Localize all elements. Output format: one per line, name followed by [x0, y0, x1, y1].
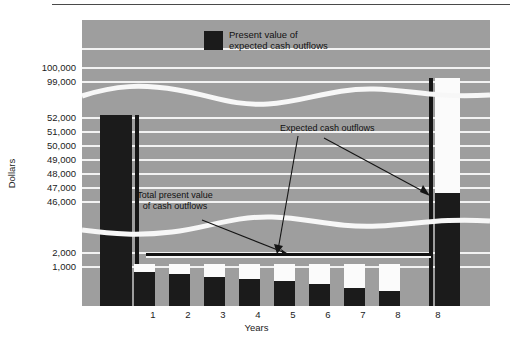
x-tick-4: 4 [248, 309, 268, 320]
bar-segment-dark [344, 288, 365, 306]
bar-segment-dark [134, 272, 155, 306]
x-tick-6: 6 [318, 309, 338, 320]
y-tick-2000: 2,000 [52, 248, 76, 258]
bar-total-present-value [100, 115, 132, 306]
bar-year-3 [204, 264, 225, 306]
y-tick-52000: 52,000 [47, 113, 76, 123]
bar-segment-dark [169, 274, 190, 306]
annotation-leader-expected-bars [272, 136, 312, 256]
y-tick-47000: 47,000 [47, 183, 76, 193]
bar-segment-light [435, 78, 460, 193]
bar-segment-dark [239, 279, 260, 306]
x-tick-5: 5 [283, 309, 303, 320]
bar-segment-dark [309, 284, 330, 306]
bar-segment-light [239, 264, 260, 279]
annotation-expected-cash-outflows: Expected cash outflows [280, 123, 420, 134]
bar-segment-dark [435, 193, 460, 306]
bar-year-6 [309, 264, 330, 306]
bar-segment-light [134, 264, 155, 272]
x-tick-2: 2 [178, 309, 198, 320]
y-tick-100000: 100,000 [42, 63, 76, 73]
chart-plot-area: Present value of expected cash outflows … [82, 20, 490, 306]
bar-segment-dark [204, 277, 225, 306]
x-tick-1: 1 [143, 309, 163, 320]
x-axis-title: Years [0, 322, 513, 333]
gridline [82, 67, 490, 69]
bar-year-5 [274, 264, 295, 306]
y-tick-1000: 1,000 [52, 262, 76, 272]
bar-segment-light [169, 264, 190, 274]
x-tick-8: 8 [388, 309, 408, 320]
legend-label: Present value of expected cash outflows [229, 30, 328, 51]
bar-year-1 [134, 264, 155, 306]
header-rule [52, 4, 510, 5]
chart-legend: Present value of expected cash outflows [204, 30, 328, 51]
bar-segment-light [344, 264, 365, 288]
bar-segment-light [379, 264, 400, 291]
x-tick-8-total: 8 [428, 309, 448, 320]
x-tick-7: 7 [353, 309, 373, 320]
y-tick-49000: 49,000 [47, 155, 76, 165]
annotation-leader-expected-right [322, 136, 438, 200]
y-tick-46000: 46,000 [47, 197, 76, 207]
bar-segment-light [309, 264, 330, 284]
legend-swatch-icon [204, 31, 223, 50]
bar-year-8 [379, 264, 400, 306]
y-tick-48000: 48,000 [47, 169, 76, 179]
bar-segment-dark [379, 291, 400, 306]
bar-segment-light [274, 264, 295, 281]
bar-segment-dark [274, 281, 295, 306]
bar-segment-dark [100, 115, 132, 306]
y-tick-50000: 50,000 [47, 141, 76, 151]
x-tick-3: 3 [213, 309, 233, 320]
bar-year-7 [344, 264, 365, 306]
bar-year-4 [239, 264, 260, 306]
bar-segment-light [204, 264, 225, 277]
y-tick-99000: 99,000 [47, 77, 76, 87]
bar-year-2 [169, 264, 190, 306]
y-tick-51000: 51,000 [47, 127, 76, 137]
y-axis-title: Dollars [6, 149, 17, 199]
bar-expected-cash-outflows-total [435, 78, 460, 306]
annotation-total-present-value: Total present value of cash outflows [134, 190, 216, 211]
